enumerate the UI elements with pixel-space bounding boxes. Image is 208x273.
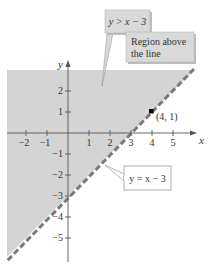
line-equation-callout: y = x − 3 — [105, 165, 171, 190]
x-tick-label: 5 — [171, 137, 176, 148]
y-axis-label: y — [57, 58, 63, 70]
data-point-marker — [149, 109, 154, 114]
x-axis-label: x — [198, 134, 204, 146]
point-label: (4, 1) — [156, 111, 178, 123]
region-label-line1: Region above — [131, 36, 187, 47]
inequality-graph: −2 −1 1 2 3 4 5 x 2 1 −1 −2 −3 −4 — [0, 0, 208, 273]
x-tick-label: 3 — [129, 137, 134, 148]
x-tick-label: 1 — [87, 137, 92, 148]
y-tick-label: −5 — [52, 232, 63, 243]
y-tick-label: 2 — [58, 85, 63, 96]
region-label-line2: the line — [131, 48, 161, 59]
callout-pointer — [105, 165, 124, 181]
y-tick-label: −3 — [52, 190, 63, 201]
line-equation-label: y = x − 3 — [129, 173, 165, 184]
y-tick-label: −2 — [52, 169, 63, 180]
y-axis-arrow-icon — [66, 60, 71, 67]
x-tick-label: −2 — [19, 137, 30, 148]
inequality-label: y > x − 3 — [108, 16, 146, 27]
y-tick-label: 1 — [58, 106, 63, 117]
y-tick-label: −1 — [52, 148, 63, 159]
x-tick-label: 4 — [150, 137, 155, 148]
x-tick-label: 2 — [108, 137, 113, 148]
x-tick-label: −1 — [40, 137, 51, 148]
region-callout: Region above the line — [126, 32, 196, 64]
x-axis-arrow-icon — [190, 131, 197, 136]
y-tick-label: −4 — [52, 211, 63, 222]
